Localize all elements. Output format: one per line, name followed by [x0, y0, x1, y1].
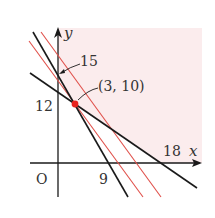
optimal-point-label: (3, 10) — [98, 78, 145, 94]
optimal-point-marker — [72, 101, 79, 108]
lp-diagram: y x O 15 12 9 18 (3, 10) — [0, 0, 215, 218]
origin-label: O — [36, 171, 47, 187]
label-18: 18 — [163, 143, 181, 159]
x-axis-label: x — [189, 142, 198, 160]
label-12: 12 — [35, 98, 53, 114]
label-15: 15 — [80, 53, 98, 69]
y-axis-label: y — [63, 24, 73, 42]
label-9: 9 — [99, 171, 108, 187]
